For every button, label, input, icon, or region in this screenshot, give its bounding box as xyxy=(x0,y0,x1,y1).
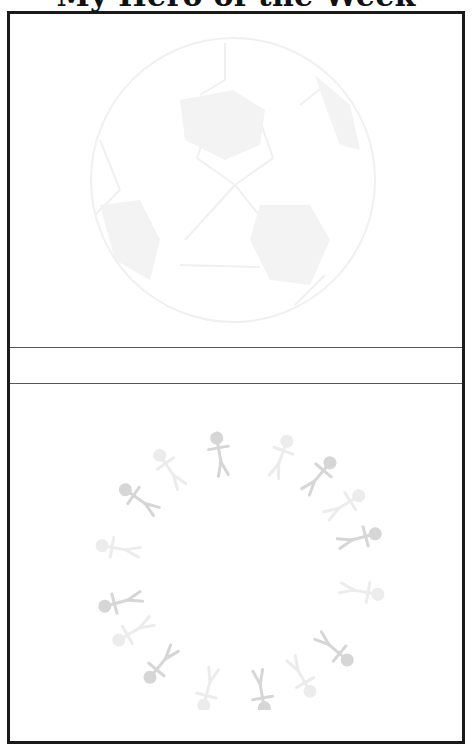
people-circle-icon xyxy=(90,420,390,710)
soccer-ball-icon xyxy=(85,35,385,330)
page-title: My Hero of the Week xyxy=(0,0,472,11)
name-line[interactable] xyxy=(10,348,462,383)
